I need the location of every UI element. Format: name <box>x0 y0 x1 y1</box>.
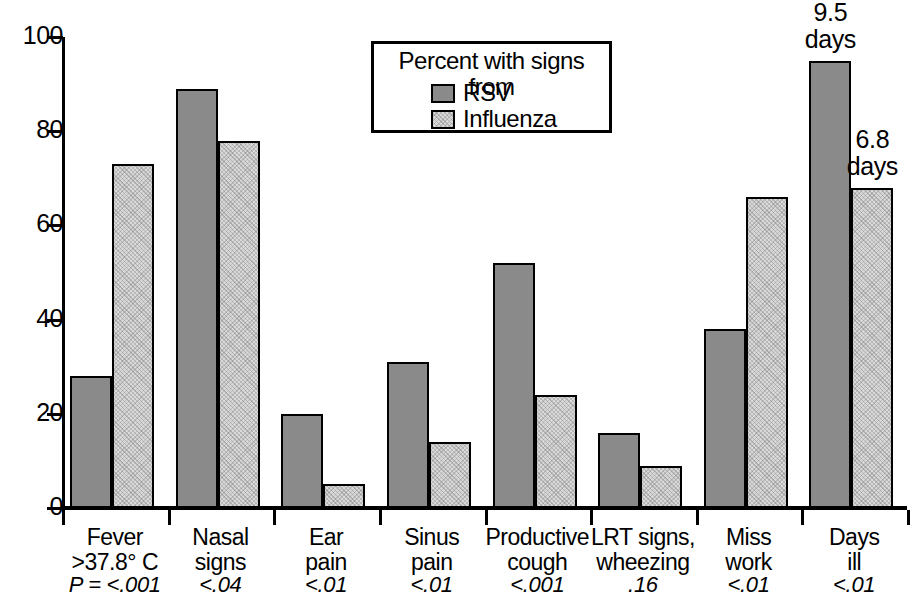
bar-rsv <box>704 329 746 508</box>
legend: Percent with signs from RSV Influenza <box>371 41 612 133</box>
bar-rsv <box>598 433 640 508</box>
y-axis-tick-label: 20 <box>19 400 63 425</box>
x-axis-tick <box>168 510 171 525</box>
bar-influenza <box>429 442 471 508</box>
y-axis-tick-label: 80 <box>19 117 63 142</box>
x-axis-tick <box>273 510 276 525</box>
bar-influenza <box>535 395 577 508</box>
bar-influenza <box>851 188 893 508</box>
legend-label-influenza: Influenza <box>463 106 557 132</box>
bar-rsv <box>70 376 112 508</box>
category-p-value: <.01 <box>774 573 914 596</box>
y-axis-tick-label: 60 <box>19 211 63 236</box>
y-axis-tick-label: 100 <box>19 23 63 48</box>
y-axis-tick-label: 0 <box>19 494 63 519</box>
bar-influenza <box>746 197 788 508</box>
x-axis-tick <box>696 510 699 525</box>
bar-rsv <box>493 263 535 508</box>
bar-influenza <box>218 141 260 508</box>
legend-label-rsv: RSV <box>463 80 511 106</box>
bar-rsv <box>387 362 429 508</box>
legend-entry-influenza: Influenza <box>431 106 557 132</box>
x-axis-tick <box>590 510 593 525</box>
bar-influenza <box>323 484 365 508</box>
category-label: Days ill <box>784 525 914 575</box>
bar-value-annotation: 6.8 days <box>822 126 914 180</box>
bar-influenza <box>112 164 154 508</box>
x-axis-tick <box>62 510 65 525</box>
legend-swatch-influenza-icon <box>431 110 455 129</box>
x-axis-tick <box>801 510 804 525</box>
bar-rsv <box>281 414 323 508</box>
bar-influenza <box>640 466 682 508</box>
y-axis-tick-label: 40 <box>19 306 63 331</box>
bar-rsv <box>176 89 218 508</box>
x-axis-tick <box>907 510 910 525</box>
bar-value-annotation: 9.5 days <box>780 0 880 53</box>
x-axis-tick <box>379 510 382 525</box>
x-axis-tick <box>485 510 488 525</box>
legend-swatch-rsv-icon <box>431 84 455 103</box>
legend-entry-rsv: RSV <box>431 80 511 106</box>
